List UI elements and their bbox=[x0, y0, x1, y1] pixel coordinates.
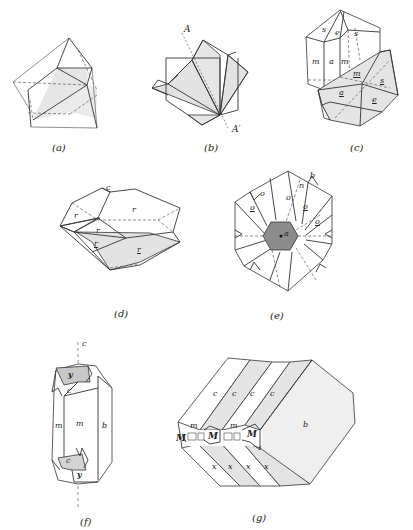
face-label-x: x bbox=[212, 463, 217, 471]
face-label-r: r bbox=[132, 206, 136, 214]
panel-b: A A′ (b) bbox=[140, 0, 280, 170]
face-label-M: M bbox=[208, 432, 218, 441]
face-label-m: m bbox=[76, 420, 84, 428]
caption-a: (a) bbox=[52, 142, 66, 153]
face-label-b: b bbox=[310, 172, 315, 180]
panel-c: s e s m a m m s a e (c) bbox=[280, 0, 413, 170]
panel-d: c r r r r r (d) bbox=[40, 170, 220, 330]
face-label-b: b bbox=[102, 422, 107, 430]
face-label-y: y bbox=[77, 470, 82, 478]
face-label-c: c bbox=[232, 390, 236, 398]
face-label-r-twin: r bbox=[137, 246, 141, 254]
caption-d: (d) bbox=[114, 308, 128, 319]
face-label-n: n bbox=[299, 182, 304, 190]
face-label-a: a bbox=[284, 230, 289, 238]
panel-a: (a) bbox=[0, 0, 140, 170]
caption-f: (f) bbox=[80, 516, 92, 527]
face-label-o: o bbox=[286, 194, 291, 202]
face-label-a-twin: a bbox=[339, 89, 344, 97]
crystal-d-drawing bbox=[40, 170, 220, 330]
face-label-m: m bbox=[55, 422, 63, 430]
face-label-s: s bbox=[354, 30, 358, 38]
face-label-c: c bbox=[66, 457, 70, 465]
panel-e: o o n b o o o a (e) bbox=[220, 170, 370, 330]
face-label-m: m bbox=[341, 58, 349, 66]
crystal-a-drawing bbox=[0, 0, 140, 170]
face-label-a: a bbox=[329, 58, 334, 66]
caption-e: (e) bbox=[270, 310, 284, 321]
crystal-e-drawing bbox=[220, 170, 370, 330]
face-label-x: x bbox=[246, 463, 251, 471]
panel-g: c c c c m m M M M b x x x x (g) bbox=[150, 330, 413, 530]
face-label-x: x bbox=[264, 463, 269, 471]
crystal-f-drawing bbox=[20, 330, 150, 530]
face-label-e-twin: e bbox=[372, 96, 377, 104]
face-label-r: r bbox=[74, 212, 78, 220]
face-label-c: c bbox=[67, 387, 71, 395]
face-label-o: o bbox=[260, 190, 265, 198]
face-label-s-twin: s bbox=[380, 77, 384, 85]
face-label-c: c bbox=[250, 390, 254, 398]
face-label-r-twin: r bbox=[94, 240, 98, 248]
face-label-x: x bbox=[228, 463, 233, 471]
crystal-g-drawing bbox=[150, 330, 413, 530]
face-label-o-twin: o bbox=[315, 218, 320, 226]
face-label-M: M bbox=[247, 430, 257, 439]
face-label-m: m bbox=[230, 422, 238, 430]
axis-label-c: c bbox=[82, 340, 86, 348]
panel-f: c y c m m b c y (f) bbox=[20, 330, 150, 530]
face-label-y: y bbox=[68, 370, 73, 378]
axis-label-a-prime: A′ bbox=[232, 125, 241, 134]
face-label-c: c bbox=[270, 390, 274, 398]
face-label-b: b bbox=[303, 421, 308, 429]
caption-g: (g) bbox=[252, 512, 266, 523]
face-label-m: m bbox=[190, 422, 198, 430]
face-label-e: e bbox=[335, 29, 340, 37]
axis-label-a: A bbox=[184, 25, 191, 34]
crystal-c-drawing bbox=[280, 0, 413, 170]
face-label-c: c bbox=[106, 184, 110, 192]
face-label-c: c bbox=[213, 390, 217, 398]
caption-c: (c) bbox=[350, 142, 363, 153]
face-label-o-twin: o bbox=[250, 204, 255, 212]
face-label-m-twin: m bbox=[353, 70, 361, 78]
face-label-o-twin: o bbox=[303, 203, 308, 211]
face-label-r: r bbox=[96, 227, 100, 235]
caption-b: (b) bbox=[204, 142, 218, 153]
face-label-m: m bbox=[312, 58, 320, 66]
face-label-s: s bbox=[322, 26, 326, 34]
face-label-M: M bbox=[176, 434, 186, 443]
